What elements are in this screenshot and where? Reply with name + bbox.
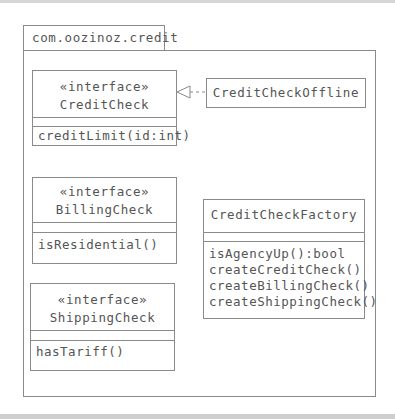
operation: createShippingCheck()	[209, 294, 364, 310]
class-shipping-check[interactable]: «interface» ShippingCheck hasTariff()	[30, 283, 175, 371]
class-name: CreditCheckOffline	[207, 79, 365, 107]
operations-section: isResidential()	[33, 233, 176, 263]
class-billing-check[interactable]: «interface» BillingCheck isResidential()	[32, 177, 177, 264]
attributes-section	[204, 233, 364, 242]
bottom-border-band	[0, 414, 395, 419]
class-name-section: «interface» ShippingCheck	[31, 284, 174, 331]
class-name-section: CreditCheckFactory	[204, 200, 364, 233]
attributes-section	[33, 223, 176, 233]
operation: createCreditCheck()	[209, 262, 364, 278]
class-name: BillingCheck	[33, 201, 176, 219]
class-name-section: CreditCheckOffline	[207, 79, 365, 107]
operation: hasTariff()	[36, 344, 174, 360]
hollow-triangle-arrowhead-icon	[177, 86, 190, 98]
operation: isResidential()	[38, 237, 176, 253]
class-name: ShippingCheck	[31, 309, 174, 327]
attributes-section	[31, 331, 174, 341]
class-credit-check-offline[interactable]: CreditCheckOffline	[206, 78, 366, 108]
stereotype-label: «interface»	[33, 183, 176, 201]
class-name: CreditCheckFactory	[204, 200, 364, 230]
class-credit-check-factory[interactable]: CreditCheckFactory isAgencyUp():bool cre…	[203, 199, 365, 319]
operations-section: isAgencyUp():bool createCreditCheck() cr…	[204, 242, 364, 318]
operation: createBillingCheck()	[209, 278, 364, 294]
operation: isAgencyUp():bool	[209, 246, 364, 262]
operations-section: hasTariff()	[31, 341, 174, 370]
class-name-section: «interface» BillingCheck	[33, 178, 176, 223]
stereotype-label: «interface»	[31, 291, 174, 309]
